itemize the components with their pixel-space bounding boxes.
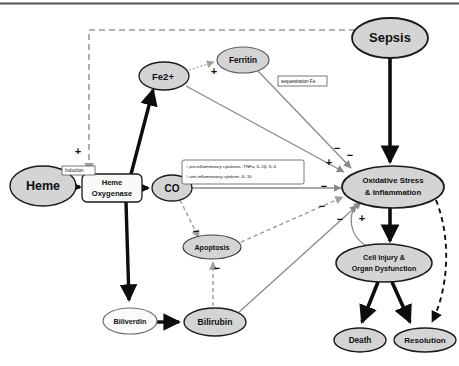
annotation-sequestration: sequestration Fe [278,76,327,86]
sign-feedback: + [359,212,365,224]
edge-ho-to-fe2 [130,90,153,178]
node-cell-injury[interactable]: Cell Injury & Organ Dysfunction [336,244,432,282]
node-ferritin[interactable]: Ferritin [217,47,269,73]
edge-cellinjury-to-resolution [392,282,410,322]
annotation-cytokines-line1: ↓ pro-inflammatory cytokines -TNFα, IL-1… [186,164,277,169]
node-apoptosis[interactable]: Apoptosis [183,235,241,259]
sign-induction: + [75,145,81,157]
sign-co-ox: − [321,180,327,192]
node-death[interactable]: Death [334,328,386,352]
sign-apoptosis-ox: − [319,200,325,212]
sign-ferritin-ox: − [334,142,340,154]
node-co-label: CO [165,183,180,194]
annotation-cytokines-line2: ↑ anti-inflammatory cytokine -IL-10 [186,174,252,179]
edge-fe2-to-oxstress [186,86,344,172]
node-death-label: Death [349,336,372,345]
sign-ferritin: + [211,65,217,77]
node-heme-oxygenase-label-line1: Heme [102,178,123,187]
node-bilirubin[interactable]: Bilirubin [184,308,246,336]
node-bilirubin-label: Bilirubin [198,317,233,327]
sign-sepsis-side: − [347,149,353,161]
edge-ho-to-biliverdin [126,202,129,300]
node-heme-oxygenase[interactable]: Heme Oxygenase [82,174,142,202]
node-sepsis-label: Sepsis [369,30,411,45]
node-oxidative-stress-label-line2: & Inflammation [365,188,422,197]
node-sepsis[interactable]: Sepsis [352,18,428,58]
node-oxidative-stress-label-line1: Oxidative Stress [362,176,424,185]
node-resolution-label: Resolution [404,336,445,345]
sign-fe2-ox: + [326,156,332,168]
edge-oxstress-to-resolution [432,200,446,322]
edge-sepsis-to-ho [89,30,355,172]
edge-cellinjury-to-death [362,282,378,322]
annotation-induction: Induction [62,166,95,175]
node-biliverdin[interactable]: Biliverdin [103,308,157,334]
annotation-layer: Induction sequestration Fe ↓ pro-inflamm… [62,76,327,184]
node-cell-injury-label-line2: Organ Dysfunction [352,264,417,273]
node-fe2[interactable]: Fe2+ [139,62,189,90]
node-biliverdin-label: Biliverdin [114,317,147,326]
sign-bilirubin-ox: − [337,213,343,225]
annotation-sequestration-text: sequestration Fe [281,79,316,84]
sign-apoptosis-bilirubin: − [214,262,220,274]
node-fe2-label: Fe2+ [152,71,174,82]
annotation-induction-text: Induction [65,168,84,173]
edge-apoptosis-to-oxstress [241,197,343,242]
node-oxidative-stress[interactable]: Oxidative Stress & Inflammation [342,166,444,208]
node-ferritin-label: Ferritin [229,56,257,65]
sign-co-apoptosis: − [193,225,199,237]
node-resolution[interactable]: Resolution [394,328,456,352]
node-apoptosis-label: Apoptosis [194,243,229,252]
diagram-canvas: Heme Heme Oxygenase Fe2+ Ferritin CO Apo… [0,0,459,366]
node-heme-label: Heme [26,179,60,193]
pathway-diagram-figure: Heme Heme Oxygenase Fe2+ Ferritin CO Apo… [0,0,459,366]
annotation-cytokines: ↓ pro-inflammatory cytokines -TNFα, IL-1… [182,160,304,184]
node-heme-oxygenase-label-line2: Oxygenase [92,189,133,198]
node-cell-injury-label-line1: Cell Injury & [363,253,405,262]
